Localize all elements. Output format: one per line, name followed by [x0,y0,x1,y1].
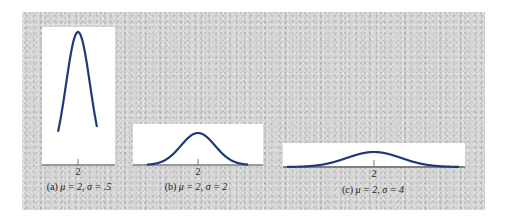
panel-c-caption: (c) μ = 2, σ = 4 [342,184,404,195]
panel-c-label: (c) [342,184,353,195]
panel-c-density-curve [287,152,459,167]
panel-c-chart [0,0,505,224]
panel-c-sigma: σ = 4 [382,184,404,195]
panel-c-mu: μ = 2, [356,184,380,195]
panel-c-tick-label: 2 [372,168,377,179]
